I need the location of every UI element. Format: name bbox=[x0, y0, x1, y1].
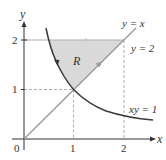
label-y-equals-2: y = 2 bbox=[130, 42, 155, 54]
region-diagram: y x 0 1 2 1 2 y = x y = 2 xy = 1 R bbox=[0, 0, 166, 160]
region-r-label: R bbox=[72, 54, 81, 68]
label-y-equals-x: y = x bbox=[121, 17, 145, 29]
origin-label: 0 bbox=[14, 142, 20, 154]
y-tick-label-2: 2 bbox=[12, 34, 18, 46]
x-tick-label-2: 2 bbox=[121, 142, 127, 154]
label-xy-equals-1: xy = 1 bbox=[128, 103, 157, 115]
x-axis-arrow-icon bbox=[150, 137, 156, 142]
region-r-shading bbox=[49, 40, 125, 90]
x-tick-label-1: 1 bbox=[70, 142, 76, 154]
y-tick-label-1: 1 bbox=[12, 83, 18, 95]
y-axis-label: y bbox=[19, 7, 26, 21]
y-axis-arrow-icon bbox=[22, 21, 27, 27]
x-axis-label: x bbox=[156, 132, 163, 146]
